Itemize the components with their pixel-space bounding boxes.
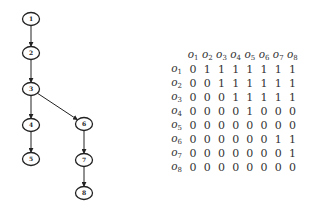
matrix-cell: 0 [285, 104, 299, 118]
matrix-cell: 0 [271, 160, 285, 174]
subscript: 8 [178, 166, 182, 174]
matrix-cell: 1 [271, 62, 285, 76]
matrix-cell: 1 [214, 76, 228, 90]
matrix-cell: 0 [186, 62, 200, 76]
subscript: 7 [178, 152, 182, 160]
matrix-cell: 0 [200, 132, 214, 146]
node-label: 1 [29, 15, 33, 22]
matrix-cell: 0 [186, 146, 200, 160]
matrix-cell: 0 [186, 132, 200, 146]
matrix-cell: 0 [214, 104, 228, 118]
matrix-cell: 0 [229, 118, 243, 132]
subscript: 6 [178, 138, 182, 146]
subscript: 1 [194, 54, 198, 62]
matrix-row: o500000000 [160, 118, 300, 132]
matrix-cell: 0 [285, 118, 299, 132]
matrix-cell: 1 [285, 76, 299, 90]
matrix-cell: 0 [186, 76, 200, 90]
matrix-cell: 0 [271, 104, 285, 118]
matrix-cell: 1 [229, 62, 243, 76]
node-label: 3 [29, 85, 33, 92]
matrix-cell: 0 [214, 146, 228, 160]
matrix-cell: 0 [243, 146, 257, 160]
matrix-header-row: o1o2o3o4o5o6o7o8 [160, 48, 300, 62]
matrix-cell: 0 [285, 160, 299, 174]
matrix-cell: 1 [271, 76, 285, 90]
node-label: 7 [82, 156, 86, 163]
dependency-graph: 12345678 [0, 0, 140, 209]
column-header: o7 [271, 48, 285, 62]
matrix-cell: 0 [243, 132, 257, 146]
matrix-row: o600000011 [160, 132, 300, 146]
matrix-cell: 0 [229, 146, 243, 160]
matrix-row: o800000000 [160, 160, 300, 174]
subscript: 5 [251, 54, 255, 62]
matrix-cell: 0 [214, 132, 228, 146]
column-header: o2 [200, 48, 214, 62]
subscript: 3 [222, 54, 226, 62]
matrix-cell: 0 [200, 118, 214, 132]
graph-node-8: 8 [76, 187, 93, 200]
matrix-cell: 0 [257, 160, 271, 174]
subscript: 4 [237, 54, 241, 62]
matrix-cell: 1 [243, 104, 257, 118]
matrix-cell: 0 [200, 104, 214, 118]
row-header: o4 [160, 104, 186, 118]
subscript: 5 [178, 124, 182, 132]
row-header: o3 [160, 90, 186, 104]
matrix-cell: 1 [243, 62, 257, 76]
subscript: 4 [178, 110, 182, 118]
matrix-cell: 0 [243, 160, 257, 174]
subscript: 3 [178, 96, 182, 104]
graph-node-5: 5 [23, 153, 40, 166]
matrix-cell: 0 [257, 104, 271, 118]
matrix-cell: 1 [285, 90, 299, 104]
graph-node-6: 6 [76, 118, 93, 131]
matrix-cell: 0 [214, 160, 228, 174]
matrix-cell: 0 [214, 90, 228, 104]
subscript: 7 [279, 54, 283, 62]
matrix-cell: 0 [200, 90, 214, 104]
column-header: o6 [257, 48, 271, 62]
row-header: o8 [160, 160, 186, 174]
node-label: 4 [29, 121, 33, 128]
row-header: o1 [160, 62, 186, 76]
column-header: o5 [243, 48, 257, 62]
matrix-cell: 1 [243, 76, 257, 90]
graph-node-1: 1 [23, 13, 40, 26]
matrix-cell: 1 [285, 132, 299, 146]
matrix-cell: 0 [257, 146, 271, 160]
node-label: 8 [82, 189, 86, 196]
matrix-row: o400001000 [160, 104, 300, 118]
column-header: o3 [214, 48, 228, 62]
row-header: o6 [160, 132, 186, 146]
node-label: 2 [29, 49, 33, 56]
matrix-cell: 0 [229, 132, 243, 146]
matrix-cell: 1 [229, 90, 243, 104]
edge-3-6 [37, 93, 77, 120]
matrix-cell: 0 [186, 160, 200, 174]
column-header: o4 [229, 48, 243, 62]
matrix-cell: 1 [271, 132, 285, 146]
matrix-row: o101111111 [160, 62, 300, 76]
matrix-cell: 0 [257, 118, 271, 132]
matrix-cell: 1 [257, 90, 271, 104]
graph-node-7: 7 [76, 154, 93, 167]
column-header: o1 [186, 48, 200, 62]
matrix-cell: 0 [200, 160, 214, 174]
matrix-row: o300011111 [160, 90, 300, 104]
matrix-cell: 0 [186, 118, 200, 132]
graph-node-4: 4 [23, 119, 40, 132]
matrix-body: o101111111o200111111o300011111o400001000… [160, 62, 300, 174]
subscript: 1 [178, 68, 182, 76]
matrix-cell: 0 [186, 104, 200, 118]
matrix-cell: 0 [229, 160, 243, 174]
matrix-row: o700000001 [160, 146, 300, 160]
matrix-cell: 1 [257, 62, 271, 76]
matrix-cell: 0 [257, 132, 271, 146]
matrix-cell: 0 [200, 76, 214, 90]
node-label: 5 [29, 155, 33, 162]
subscript: 2 [178, 82, 182, 90]
matrix-cell: 0 [186, 90, 200, 104]
row-header: o7 [160, 146, 186, 160]
